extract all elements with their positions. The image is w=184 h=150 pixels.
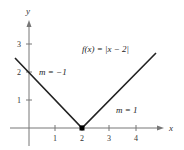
chart-canvas: x y 1 2 3 4 1 2 3 f(x) = |x − 2| m = −1 … — [0, 0, 184, 150]
x-axis-label: x — [168, 123, 173, 133]
x-axis-arrow-icon — [157, 126, 164, 131]
slope-left-label: m = −1 — [39, 67, 67, 77]
vertex-point — [80, 126, 85, 131]
x-tick-2: 2 — [80, 134, 84, 143]
x-tick-3: 3 — [107, 134, 111, 143]
y-axis-arrow-icon — [27, 20, 32, 27]
function-label: f(x) = |x − 2| — [82, 44, 129, 54]
y-tick-1: 1 — [17, 96, 21, 105]
x-tick-4: 4 — [134, 134, 138, 143]
x-tick-1: 1 — [53, 134, 57, 143]
y-tick-3: 3 — [17, 40, 21, 49]
y-axis-label: y — [25, 6, 30, 16]
function-line — [15, 53, 156, 128]
y-tick-2: 2 — [17, 68, 21, 77]
slope-right-label: m = 1 — [116, 105, 138, 115]
